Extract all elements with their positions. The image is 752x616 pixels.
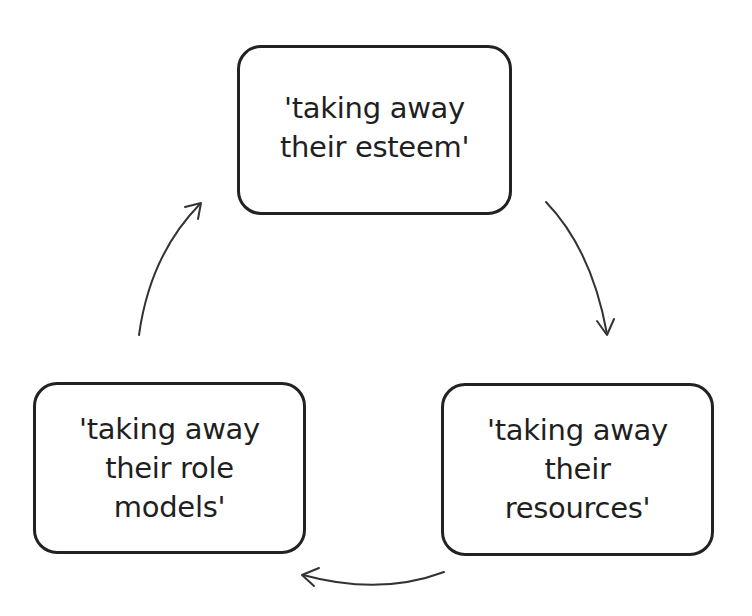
node-resources-label: 'taking away their resources' [487, 411, 668, 528]
arrow-top-to-right [546, 202, 614, 335]
node-esteem-label: 'taking away their esteem' [280, 89, 469, 167]
node-role-models-label: 'taking away their role models' [79, 410, 260, 527]
node-role-models: 'taking away their role models' [33, 382, 306, 554]
arrow-right-to-left [302, 568, 444, 586]
arrow-left-to-top [139, 203, 201, 335]
cycle-diagram: 'taking away their esteem' 'taking away … [0, 0, 752, 616]
node-esteem: 'taking away their esteem' [237, 45, 512, 215]
node-resources: 'taking away their resources' [441, 383, 714, 556]
